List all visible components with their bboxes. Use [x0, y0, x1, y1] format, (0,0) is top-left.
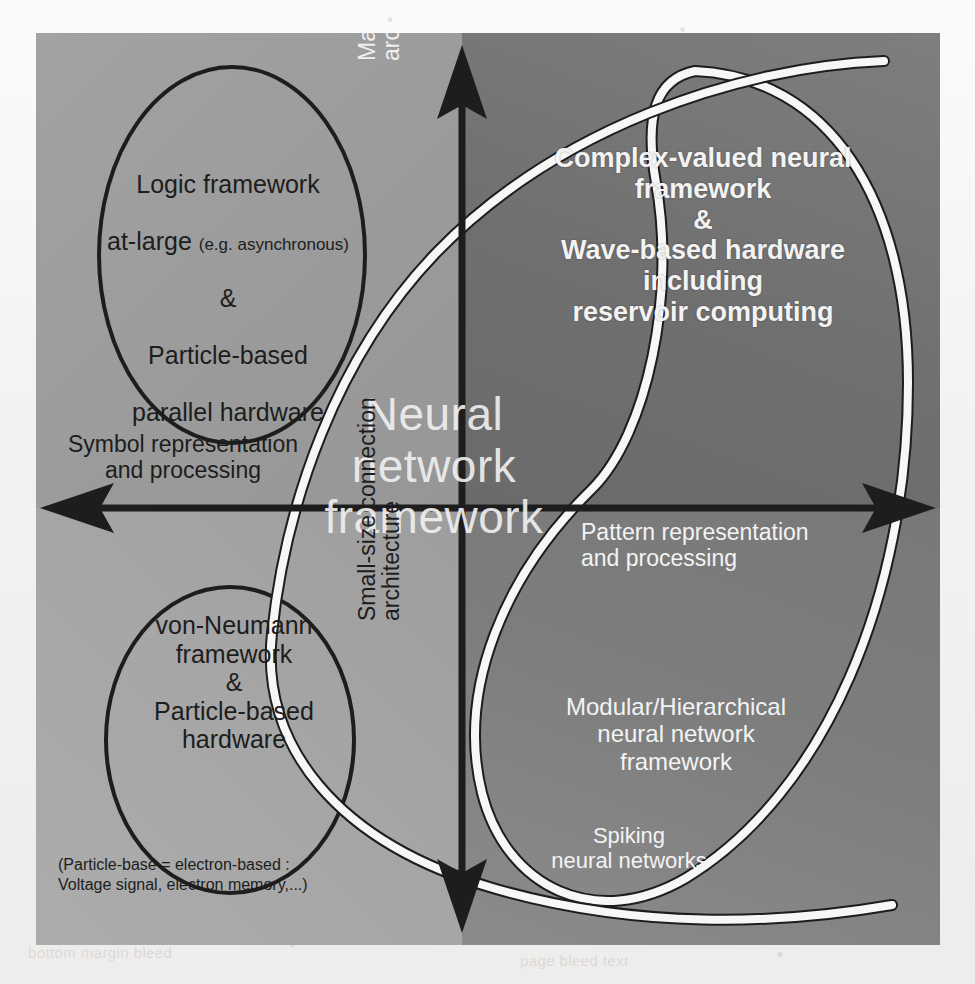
ghost-text-bottom-right: page bleed text — [520, 952, 629, 969]
axis-label-small-size-connection: Small-size connection architecture — [354, 261, 398, 621]
label-modular-hierarchical-framework: Modular/Hierarchical neural network fram… — [476, 693, 876, 775]
massive-line-1: Massive-connection — [354, 33, 380, 61]
quadrant-diagram-panel: Logic framework at-large (e.g. asynchron… — [36, 33, 940, 945]
label-spiking-neural-networks: Spiking neural networks — [464, 823, 794, 873]
axis-label-symbol-representation: Symbol representation and processing — [36, 431, 348, 483]
logic-line-2: at-large (e.g. asynchronous) — [58, 227, 398, 256]
small-line-1: Small-size connection — [354, 397, 380, 621]
axis-label-massive-connection: Massive-connection architecture — [354, 33, 398, 61]
logic-line-3: & — [58, 284, 398, 313]
footnote-particle-base-definition: (Particle-base = electron-based : Voltag… — [58, 855, 398, 895]
logic-line-2-main: at-large — [107, 227, 199, 255]
label-von-neumann-framework: von-Neumann framework & Particle-based h… — [84, 611, 384, 754]
label-complex-valued-neural-framework: Complex-valued neural framework & Wave-b… — [468, 143, 938, 328]
logic-line-1: Logic framework — [58, 170, 398, 199]
axis-label-pattern-representation: Pattern representation and processing — [581, 519, 921, 571]
massive-line-2: architecture — [378, 33, 405, 61]
logic-line-4: Particle-based — [58, 341, 398, 370]
small-line-2: architecture — [378, 501, 405, 621]
figure-canvas: bottom margin bleed page bleed text — [0, 0, 975, 984]
ghost-text-bottom-left: bottom margin bleed — [28, 944, 172, 961]
logic-line-2-small: (e.g. asynchronous) — [199, 235, 349, 254]
